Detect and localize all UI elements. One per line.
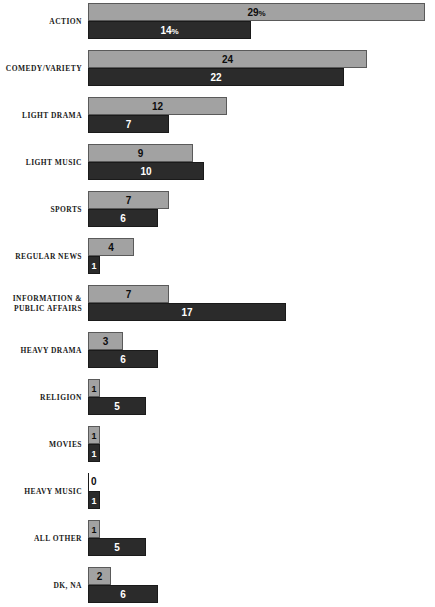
category-label: INFORMATION &PUBLIC AFFAIRS bbox=[0, 284, 82, 324]
bar-value-label: 1 bbox=[89, 257, 99, 275]
bar-value-label: 0 bbox=[91, 473, 97, 491]
chart-row: LIGHT MUSIC910 bbox=[0, 143, 435, 190]
dark-bar: 6 bbox=[88, 209, 158, 227]
bar-value-number: 1 bbox=[91, 449, 96, 459]
light-bar: 1 bbox=[88, 426, 100, 444]
chart-row: ACTION29%14% bbox=[0, 2, 435, 49]
light-bar: 4 bbox=[88, 238, 134, 256]
chart-row: INFORMATION &PUBLIC AFFAIRS717 bbox=[0, 284, 435, 331]
bar-value-number: 17 bbox=[181, 307, 192, 318]
bar-value-label: 5 bbox=[89, 539, 145, 557]
bar-value-label: 1 bbox=[89, 380, 99, 398]
category-label: ALL OTHER bbox=[0, 519, 82, 559]
bar-value-number: 6 bbox=[120, 589, 126, 600]
bar-value-label: 1 bbox=[89, 445, 99, 463]
bars-area: 15 bbox=[88, 378, 435, 418]
chart-row: HEAVY DRAMA36 bbox=[0, 331, 435, 378]
bars-area: 41 bbox=[88, 237, 435, 277]
light-bar: 24 bbox=[88, 50, 367, 68]
bar-value-number: 14 bbox=[160, 25, 171, 36]
bar-value-label: 2 bbox=[89, 568, 110, 586]
category-label: COMEDY/VARIETY bbox=[0, 49, 82, 89]
bar-value-label: 3 bbox=[89, 333, 122, 351]
category-label-line: HEAVY DRAMA bbox=[21, 346, 82, 356]
category-label-line: MOVIES bbox=[49, 440, 82, 450]
category-label-line: COMEDY/VARIETY bbox=[6, 64, 82, 74]
bar-value-number: 7 bbox=[126, 119, 132, 130]
bar-value-number: 5 bbox=[114, 401, 120, 412]
bar-value-label: 6 bbox=[89, 351, 157, 369]
dark-bar: 10 bbox=[88, 162, 204, 180]
bars-area: 127 bbox=[88, 96, 435, 136]
bar-value-number: 7 bbox=[126, 289, 132, 300]
chart-row: COMEDY/VARIETY2422 bbox=[0, 49, 435, 96]
light-bar: 7 bbox=[88, 191, 169, 209]
category-label: RELIGION bbox=[0, 378, 82, 418]
bar-value-number: 2 bbox=[97, 571, 103, 582]
bar-value-label: 22 bbox=[89, 69, 343, 87]
category-label-line: SPORTS bbox=[50, 205, 82, 215]
bar-value-label: 29% bbox=[89, 4, 424, 22]
dark-bar: 5 bbox=[88, 397, 146, 415]
category-label: MOVIES bbox=[0, 425, 82, 465]
bar-value-number: 7 bbox=[126, 195, 132, 206]
dark-bar: 6 bbox=[88, 350, 158, 368]
bar-value-number: 12 bbox=[152, 101, 163, 112]
bar-value-label: 14% bbox=[89, 22, 250, 40]
light-bar: 29% bbox=[88, 3, 425, 21]
bar-value-label: 24 bbox=[89, 51, 366, 69]
bar-value-number: 1 bbox=[91, 431, 96, 441]
bar-value-label: 6 bbox=[89, 210, 157, 228]
chart-row: SPORTS76 bbox=[0, 190, 435, 237]
category-label-line: DK, NA bbox=[53, 581, 82, 591]
category-label-line: ALL OTHER bbox=[34, 534, 82, 544]
bars-area: 717 bbox=[88, 284, 435, 324]
bars-area: 29%14% bbox=[88, 2, 435, 42]
bar-value-number: 24 bbox=[222, 54, 233, 65]
category-label: LIGHT MUSIC bbox=[0, 143, 82, 183]
category-label: LIGHT DRAMA bbox=[0, 96, 82, 136]
category-label-line: INFORMATION & bbox=[13, 294, 82, 304]
chart-row: HEAVY MUSIC01 bbox=[0, 472, 435, 519]
bar-value-number: 1 bbox=[91, 261, 96, 271]
bar-value-label: 7 bbox=[89, 116, 168, 134]
light-bar: 9 bbox=[88, 144, 193, 162]
bar-value-number: 5 bbox=[114, 542, 120, 553]
bar-value-number: 9 bbox=[138, 148, 144, 159]
dark-bar: 17 bbox=[88, 303, 286, 321]
bar-value-number: 4 bbox=[108, 242, 114, 253]
chart-row: REGULAR NEWS41 bbox=[0, 237, 435, 284]
bar-value-label: 10 bbox=[89, 163, 203, 181]
bar-value-label: 6 bbox=[89, 586, 157, 604]
bars-area: 76 bbox=[88, 190, 435, 230]
bars-area: 11 bbox=[88, 425, 435, 465]
dark-bar: 6 bbox=[88, 585, 158, 603]
bar-value-label: 1 bbox=[89, 427, 99, 445]
category-label-line: LIGHT DRAMA bbox=[22, 111, 82, 121]
bar-value-number: 10 bbox=[140, 166, 151, 177]
chart-row: RELIGION15 bbox=[0, 378, 435, 425]
bars-area: 26 bbox=[88, 566, 435, 606]
bars-area: 910 bbox=[88, 143, 435, 183]
light-bar: 0 bbox=[88, 473, 89, 491]
bar-value-number: 6 bbox=[120, 354, 126, 365]
bar-value-label: 12 bbox=[89, 98, 226, 116]
bar-value-label: 4 bbox=[89, 239, 133, 257]
category-label-line: RELIGION bbox=[40, 393, 82, 403]
bar-value-number: 29 bbox=[247, 7, 258, 18]
bar-value-number: 22 bbox=[210, 72, 221, 83]
category-label: SPORTS bbox=[0, 190, 82, 230]
light-bar: 2 bbox=[88, 567, 111, 585]
dark-bar: 14% bbox=[88, 21, 251, 39]
bar-value-number: 6 bbox=[120, 213, 126, 224]
bar-value-label: 7 bbox=[89, 192, 168, 210]
light-bar: 1 bbox=[88, 520, 100, 538]
chart-row: ALL OTHER15 bbox=[0, 519, 435, 566]
bar-value-number: 0 bbox=[91, 476, 97, 487]
category-label-line: HEAVY MUSIC bbox=[24, 487, 82, 497]
category-label-line: REGULAR NEWS bbox=[15, 252, 82, 262]
category-label: HEAVY DRAMA bbox=[0, 331, 82, 371]
bar-value-number: 1 bbox=[91, 525, 96, 535]
dark-bar: 1 bbox=[88, 256, 100, 274]
